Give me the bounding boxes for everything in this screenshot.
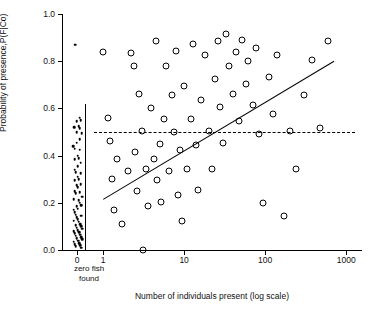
plot-area: 0.00.20.40.60.81.001101001000 (62, 14, 362, 251)
data-point-open (150, 156, 157, 163)
data-point-open (214, 38, 221, 45)
data-point-filled (80, 214, 83, 217)
x-axis-tick-label: 10 (179, 256, 188, 265)
data-point-open (242, 80, 249, 87)
data-point-filled (77, 207, 80, 210)
data-point-open (165, 167, 172, 174)
data-point-filled (75, 141, 78, 144)
data-point-open (317, 125, 324, 132)
data-point-filled (81, 227, 84, 230)
data-point-open (114, 156, 121, 163)
y-axis-tick-label: 0.0 (43, 246, 55, 254)
data-point-open (106, 138, 113, 145)
data-point-filled (78, 138, 81, 141)
data-point-filled (80, 204, 83, 207)
y-axis-tick (58, 203, 63, 204)
data-point-filled (76, 186, 79, 189)
data-point-open (217, 104, 224, 111)
data-point-open (158, 198, 165, 205)
y-axis-tick-label: 0.4 (43, 152, 55, 160)
y-axis-tick (58, 156, 63, 157)
data-point-open (265, 73, 272, 80)
data-point-open (145, 203, 152, 210)
data-point-filled (81, 196, 84, 199)
y-axis-tick-label: 0.8 (43, 57, 55, 65)
y-axis-tick-label: 1.0 (43, 10, 55, 18)
data-point-open (229, 91, 236, 98)
data-point-open (208, 165, 215, 172)
data-point-open (181, 82, 188, 89)
y-axis-tick-label: 0.2 (43, 199, 55, 207)
y-axis-tick (58, 61, 63, 62)
y-axis-tick-label: 0.6 (43, 104, 55, 112)
data-point-filled (77, 178, 80, 181)
data-point-filled (74, 171, 77, 174)
data-point-open (325, 38, 332, 45)
data-point-filled (75, 131, 78, 134)
data-point-open (211, 75, 218, 82)
data-point-open (132, 149, 139, 156)
data-point-open (233, 48, 240, 55)
data-point-open (309, 57, 316, 64)
data-point-open (153, 177, 160, 184)
zero-category-note: zero fish found (72, 264, 106, 283)
data-point-open (273, 52, 280, 59)
data-point-open (226, 62, 233, 69)
scatter-plot-figure: Probability of presence,P(F|Co) 0.00.20.… (0, 0, 384, 315)
data-point-filled (80, 132, 83, 135)
data-point-open (109, 176, 116, 183)
data-point-open (195, 186, 202, 193)
data-point-open (139, 247, 146, 254)
data-point-open (163, 62, 170, 69)
data-point-filled (73, 126, 76, 129)
data-point-filled (77, 157, 80, 160)
data-point-open (260, 199, 267, 206)
data-point-filled (73, 147, 76, 150)
data-point-open (239, 36, 246, 43)
data-point-open (190, 40, 197, 47)
data-point-open (219, 139, 226, 146)
data-point-open (280, 212, 287, 219)
data-point-filled (79, 191, 82, 194)
data-point-open (133, 188, 140, 195)
data-point-filled (80, 172, 83, 175)
data-point-open (292, 165, 299, 172)
data-point-filled (73, 179, 76, 182)
y-axis-tick (58, 14, 63, 15)
data-point-open (118, 221, 125, 228)
x-axis-tick-label: 1000 (337, 256, 356, 265)
data-point-open (160, 116, 167, 123)
zero-category-separator (85, 104, 86, 250)
data-point-filled (72, 198, 75, 201)
data-point-filled (78, 148, 81, 151)
data-point-open (245, 58, 252, 65)
data-point-open (175, 191, 182, 198)
data-point-open (130, 62, 137, 69)
data-point-open (127, 49, 134, 56)
data-point-open (173, 47, 180, 54)
data-point-filled (80, 246, 83, 249)
data-point-open (156, 140, 163, 147)
reference-line-dashed (94, 132, 355, 133)
data-point-open (179, 217, 186, 224)
x-axis-title: Number of individuals present (log scale… (62, 291, 362, 301)
data-point-filled (74, 192, 77, 195)
data-point-open (138, 127, 145, 134)
data-point-filled (74, 43, 77, 46)
data-point-open (110, 206, 117, 213)
data-point-open (300, 92, 307, 99)
data-point-open (286, 127, 293, 134)
data-point-filled (80, 183, 83, 186)
data-point-open (148, 105, 155, 112)
data-point-open (153, 38, 160, 45)
data-point-open (197, 97, 204, 104)
data-point-filled (76, 165, 79, 168)
data-point-filled (73, 158, 76, 161)
y-axis-title: Probability of presence,P(F|Co) (0, 14, 8, 132)
data-point-open (187, 116, 194, 123)
data-point-filled (75, 120, 78, 123)
data-point-open (201, 52, 208, 59)
data-point-filled (78, 127, 81, 130)
y-axis-tick (58, 108, 63, 109)
data-point-filled (80, 161, 83, 164)
